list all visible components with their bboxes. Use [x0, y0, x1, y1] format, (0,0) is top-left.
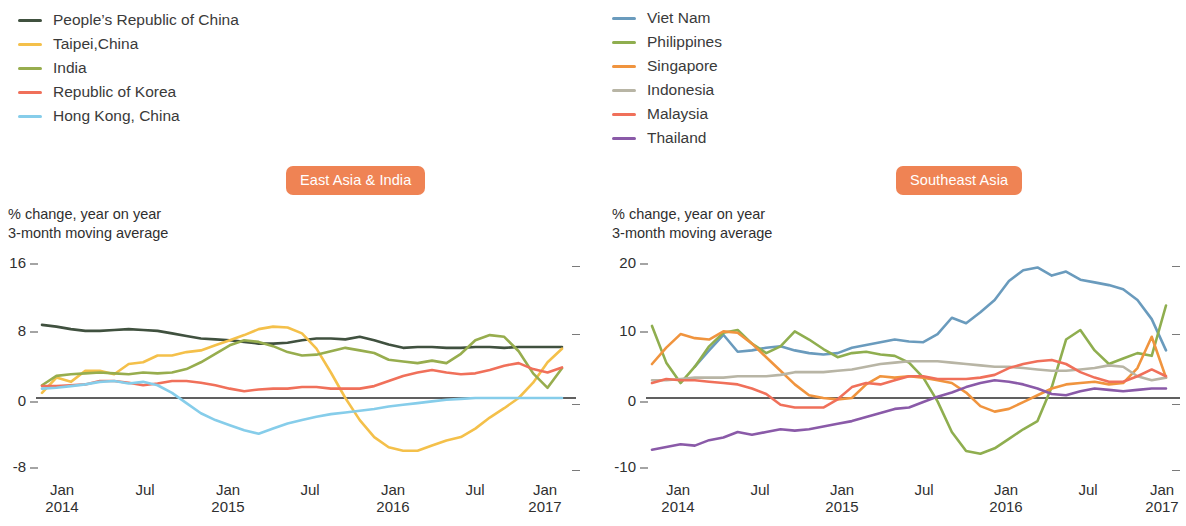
legend-item: Singapore — [612, 54, 722, 78]
y-axis-tick-right-mirror — [572, 253, 580, 271]
series-line — [42, 363, 562, 391]
plot-area-southeast-asia — [600, 250, 1186, 475]
legend-color-swatch-icon — [18, 115, 42, 118]
legend-color-swatch-icon — [18, 43, 42, 46]
legend-item: Thailand — [612, 126, 722, 150]
x-axis-tick: Jan2017 — [528, 481, 561, 515]
x-axis-tick: Jan2017 — [1145, 481, 1178, 515]
y-axis-tick-right-mirror — [1172, 321, 1180, 339]
y-axis-tick-left: -10 — [600, 458, 648, 475]
legend-item-label: Thailand — [647, 126, 706, 150]
legend-color-swatch-icon — [18, 19, 42, 22]
x-axis-tick: Jan2016 — [376, 481, 409, 515]
series-line — [652, 380, 1166, 449]
y-axis-tick-left: -8 — [0, 458, 38, 475]
x-axis-tick: Jan2016 — [989, 481, 1022, 515]
y-axis-tick-left: 10 — [600, 322, 648, 339]
x-axis-tick: Jan2014 — [661, 481, 694, 515]
legend-color-swatch-icon — [18, 91, 42, 94]
y-axis-tick-right-mirror — [572, 391, 580, 409]
line-chart-svg-east-asia-india — [0, 250, 600, 475]
legend-item-label: Viet Nam — [647, 6, 710, 30]
y-axis-tick-left: 8 — [0, 322, 38, 339]
legend-item: Republic of Korea — [18, 80, 239, 104]
series-line — [652, 306, 1166, 454]
legend-color-swatch-icon — [612, 17, 636, 20]
legend-color-swatch-icon — [612, 137, 636, 140]
legend-item-label: Taipei,China — [53, 32, 138, 56]
y-axis-tick-left: 0 — [0, 392, 38, 409]
x-axis-tick: Jul — [465, 481, 484, 498]
x-axis-tick: Jan2015 — [211, 481, 244, 515]
legend-item: Philippines — [612, 30, 722, 54]
legend-item-label: Malaysia — [647, 102, 708, 126]
legend-item-label: Republic of Korea — [53, 80, 176, 104]
line-chart-svg-southeast-asia — [600, 250, 1186, 475]
chart-panel-east-asia-india: People’s Republic of China Taipei,China … — [0, 0, 600, 526]
legend-item: Taipei,China — [18, 32, 239, 56]
legend-southeast-asia: Viet Nam Philippines Singapore Indonesia… — [612, 6, 722, 150]
legend-color-swatch-icon — [18, 67, 42, 70]
legend-color-swatch-icon — [612, 41, 636, 44]
plot-area-east-asia-india — [0, 250, 600, 475]
axis-caption-right: % change, year on year 3-month moving av… — [612, 205, 772, 243]
legend-item-label: Indonesia — [647, 78, 714, 102]
y-axis-tick-left: 20 — [600, 254, 648, 271]
caption-line-2: 3-month moving average — [612, 224, 772, 243]
legend-color-swatch-icon — [612, 65, 636, 68]
series-line — [652, 360, 1166, 408]
chart-panel-southeast-asia: Viet Nam Philippines Singapore Indonesia… — [600, 0, 1186, 526]
x-axis-tick: Jul — [135, 481, 154, 498]
legend-color-swatch-icon — [612, 113, 636, 116]
chart-title-badge-southeast-asia: Southeast Asia — [896, 166, 1022, 195]
x-axis-tick: Jan2015 — [825, 481, 858, 515]
x-axis-tick: Jul — [1078, 481, 1097, 498]
legend-item: Hong Kong, China — [18, 104, 239, 128]
legend-item: People’s Republic of China — [18, 8, 239, 32]
legend-item: Viet Nam — [612, 6, 722, 30]
series-line — [42, 381, 562, 434]
y-axis-tick-right-mirror — [572, 457, 580, 475]
caption-line-1: % change, year on year — [612, 205, 772, 224]
legend-east-asia-india: People’s Republic of China Taipei,China … — [18, 8, 239, 128]
legend-item: Indonesia — [612, 78, 722, 102]
caption-line-2: 3-month moving average — [8, 224, 168, 243]
y-axis-tick-right-mirror — [1172, 457, 1180, 475]
y-axis-tick-left: 0 — [600, 392, 648, 409]
chart-title-badge-east-asia-india: East Asia & India — [286, 166, 425, 195]
y-axis-tick-right-mirror — [1172, 253, 1180, 271]
legend-item-label: Singapore — [647, 54, 718, 78]
legend-item-label: Philippines — [647, 30, 722, 54]
legend-item-label: India — [53, 56, 87, 80]
x-axis-tick: Jul — [300, 481, 319, 498]
legend-item: India — [18, 56, 239, 80]
x-axis-tick: Jan2014 — [45, 481, 78, 515]
legend-item-label: People’s Republic of China — [53, 8, 239, 32]
caption-line-1: % change, year on year — [8, 205, 168, 224]
series-line — [42, 327, 562, 451]
series-line — [42, 335, 562, 388]
legend-color-swatch-icon — [612, 89, 636, 92]
y-axis-tick-right-mirror — [572, 321, 580, 339]
axis-caption-left: % change, year on year 3-month moving av… — [8, 205, 168, 243]
legend-item: Malaysia — [612, 102, 722, 126]
y-axis-tick-right-mirror — [1172, 391, 1180, 409]
legend-item-label: Hong Kong, China — [53, 104, 180, 128]
x-axis-tick: Jul — [914, 481, 933, 498]
x-axis-tick: Jul — [750, 481, 769, 498]
y-axis-tick-left: 16 — [0, 254, 38, 271]
